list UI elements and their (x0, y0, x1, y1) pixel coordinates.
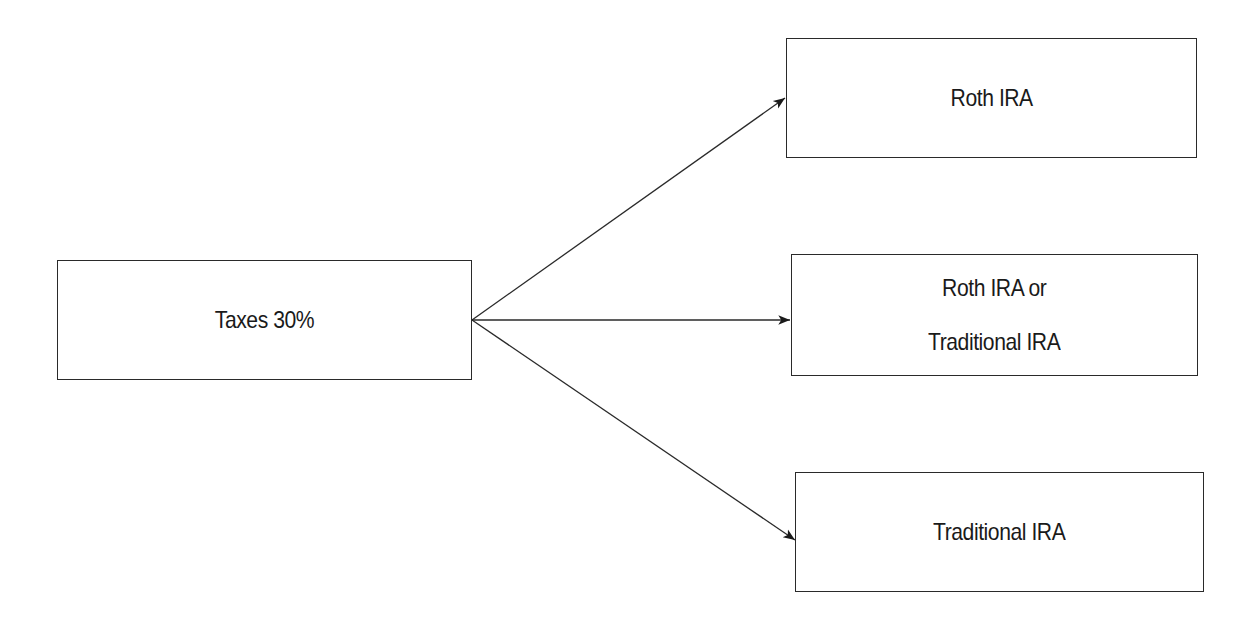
traditional-ira-label: Traditional IRA (933, 505, 1065, 559)
arrow-to-traditional-ira (472, 320, 795, 540)
roth-or-traditional-box: Roth IRA or Traditional IRA (791, 254, 1198, 376)
roth-or-label: Roth IRA or (942, 261, 1046, 315)
taxes-label: Taxes 30% (215, 293, 314, 347)
traditional-ira-line-label: Traditional IRA (928, 315, 1060, 369)
arrow-to-roth-ira (472, 98, 785, 320)
roth-ira-box: Roth IRA (786, 38, 1197, 158)
roth-ira-label: Roth IRA (950, 71, 1032, 125)
traditional-ira-box: Traditional IRA (795, 472, 1204, 592)
taxes-box: Taxes 30% (57, 260, 472, 380)
